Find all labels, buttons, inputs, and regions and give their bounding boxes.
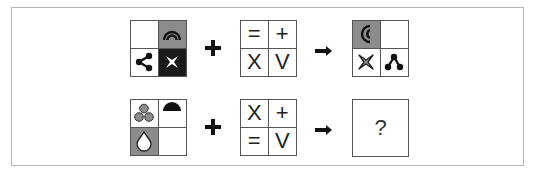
row2-plus-operator (205, 119, 221, 139)
row2-rule-cell-br: V (269, 128, 297, 156)
share-nodes-icon (133, 51, 155, 73)
question-mark: ? (374, 115, 386, 141)
rule-symbol: X (247, 51, 262, 73)
row2-rule-cell-tr: + (269, 100, 297, 128)
rule-symbol: V (275, 130, 290, 152)
row2-input-cell-tl (131, 100, 159, 128)
rule-symbol: = (248, 130, 261, 152)
rule-symbol: V (275, 51, 290, 73)
answer-box: ? (352, 99, 409, 157)
rule-symbol: + (276, 23, 289, 45)
double-arc-icon (161, 23, 183, 45)
rule-symbol: + (276, 102, 289, 124)
row1-input-cell-br (159, 49, 187, 77)
row1-input-cell-tr (159, 21, 187, 49)
arrow-right-icon (315, 124, 333, 136)
half-circle-icon (161, 100, 183, 120)
row1-rule-grid: = + X V (240, 20, 297, 77)
arrow-right-icon (315, 45, 333, 57)
row1-output-cell-br (381, 49, 409, 77)
row1-output-grid (352, 20, 409, 77)
plus-icon (205, 119, 221, 135)
row1-input-cell-bl (131, 49, 159, 77)
row2-input-cell-br (159, 128, 187, 156)
row2-input-grid (130, 99, 187, 156)
row1-rule-cell-tl: = (241, 21, 269, 49)
row1-rule-cell-bl: X (241, 49, 269, 77)
droplet-icon (133, 130, 155, 152)
row2-rule-cell-tl: X (241, 100, 269, 128)
row2-input-cell-bl (131, 128, 159, 156)
rule-symbol: = (248, 23, 261, 45)
row1-plus-operator (205, 40, 221, 60)
plus-icon (205, 40, 221, 56)
row2-arrow (315, 122, 333, 140)
row1-rule-cell-tr: + (269, 21, 297, 49)
double-crescent-icon (355, 23, 377, 45)
row1-rule-cell-br: V (269, 49, 297, 77)
row1-arrow (315, 43, 333, 61)
four-point-star-icon (355, 51, 377, 73)
row2-rule-grid: X + = V (240, 99, 297, 156)
rule-symbol: X (247, 102, 262, 124)
four-point-star-icon (161, 51, 183, 73)
three-circles-icon (133, 102, 155, 124)
row2-input-cell-tr (159, 100, 187, 128)
row1-output-cell-bl (353, 49, 381, 77)
row2-rule-cell-bl: = (241, 128, 269, 156)
row1-input-grid (130, 20, 187, 77)
row1-input-cell-tl (131, 21, 159, 49)
row1-output-cell-tl (353, 21, 381, 49)
share-nodes-up-icon (383, 51, 405, 73)
row1-output-cell-tr (381, 21, 409, 49)
